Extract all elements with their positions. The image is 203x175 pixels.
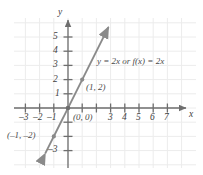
- x-tick-label-neg2: –2: [33, 113, 43, 123]
- x-tick-label-3: 3: [108, 113, 113, 123]
- y-axis-label: y: [58, 8, 62, 18]
- y-tick-label-5: 5: [53, 32, 58, 42]
- x-tick-label-7: 7: [164, 113, 169, 123]
- grid-lines: [14, 18, 196, 168]
- point-label-neg1-neg2: (–1, –2): [7, 131, 36, 140]
- point-label-0-0: (0, 0): [73, 113, 93, 122]
- y-tick-label-1: 1: [55, 89, 60, 99]
- x-tick-label-5: 5: [136, 113, 141, 123]
- equation-label: y = 2x or f(x) = 2x: [97, 57, 164, 66]
- y-tick-label-2: 2: [53, 75, 58, 85]
- point-marker-1-2: [80, 78, 84, 82]
- point-marker-0-0: [66, 106, 71, 111]
- point-marker-neg1-neg2: [52, 134, 56, 138]
- x-tick-label-neg3: –3: [19, 113, 29, 123]
- y-tick-label-neg3: –3: [48, 145, 58, 155]
- y-tick-label-4: 4: [53, 46, 58, 56]
- y-tick-label-3: 3: [53, 60, 58, 70]
- x-axis-label: x: [189, 110, 193, 120]
- graph-figure: y x 5 4 3 2 1 –3 –3 –2 –1 3 4 5 6 7 y = …: [0, 0, 203, 175]
- point-label-1-2: (1, 2): [86, 83, 106, 92]
- x-tick-label-neg1: –1: [47, 113, 57, 123]
- x-tick-label-6: 6: [150, 113, 155, 123]
- x-tick-label-4: 4: [122, 113, 127, 123]
